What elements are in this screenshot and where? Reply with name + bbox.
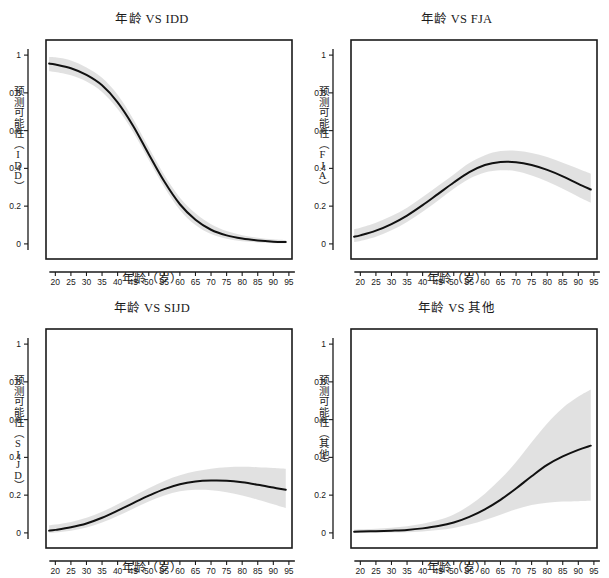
y-tick-label: 0.2 [9,201,21,211]
y-tick-label: 0 [321,239,326,249]
panel-title: 年龄 VS 其他 [305,297,609,316]
y-tick-label: 0 [16,239,21,249]
y-tick-label: 0 [321,528,326,538]
x-axis-label: 年龄（岁） [0,558,304,576]
y-tick-label: 0.2 [314,201,326,211]
plot-background [46,329,292,548]
chart-panel-top-left: 年龄 VS IDD预测可能性（IDD）年龄（岁）00.20.40.60.8120… [0,0,304,289]
y-tick-label: 0.2 [9,490,21,500]
plot-area: 00.20.40.60.8120253035404550556065707580… [0,0,304,289]
chart-panel-bottom-right: 年龄 VS 其他预测可能性（其他）年龄（岁）00.20.40.60.812025… [305,289,609,578]
y-tick-label: 0 [16,528,21,538]
panel-title: 年龄 VS FJA [305,8,609,27]
x-axis-label: 年龄（岁） [305,558,609,576]
figure-panel-grid: 年龄 VS IDD预测可能性（IDD）年龄（岁）00.20.40.60.8120… [0,0,609,578]
y-tick-label: 1 [321,50,326,60]
y-tick-label: 1 [16,50,21,60]
y-axis-label: 预测可能性（IDD） [12,86,23,191]
plot-area: 00.20.40.60.8120253035404550556065707580… [0,289,304,578]
y-axis-label: 预测可能性（SIJD） [12,375,23,491]
panel-title: 年龄 VS IDD [0,8,304,27]
y-tick-label: 1 [321,339,326,349]
panel-title: 年龄 VS SIJD [0,297,304,316]
x-axis-label: 年龄（岁） [0,269,304,287]
y-tick-label: 0.2 [314,490,326,500]
chart-panel-bottom-left: 年龄 VS SIJD预测可能性（SIJD）年龄（岁）00.20.40.60.81… [0,289,304,578]
plot-area: 00.20.40.60.8120253035404550556065707580… [305,289,609,578]
chart-panel-top-right: 年龄 VS FJA预测可能性（FJA）年龄（岁）00.20.40.60.8120… [305,0,609,289]
x-axis-label: 年龄（岁） [305,269,609,287]
y-axis-label: 预测可能性（其他） [317,375,328,470]
y-axis-label: 预测可能性（FJA） [317,86,328,191]
plot-area: 00.20.40.60.8120253035404550556065707580… [305,0,609,289]
y-tick-label: 1 [16,339,21,349]
